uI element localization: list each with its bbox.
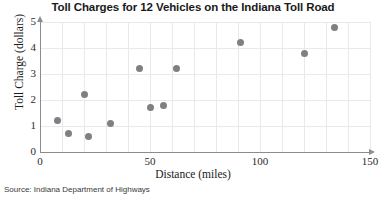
x-axis-label: Distance (miles) [0, 168, 386, 180]
x-axis-line [40, 152, 372, 153]
data-point [160, 102, 167, 109]
gridline-vertical [216, 22, 217, 152]
data-point [301, 50, 308, 57]
gridline-vertical [62, 22, 63, 152]
scatter-chart: Toll Charges for 12 Vehicles on the Indi… [0, 0, 386, 200]
gridline-vertical [326, 22, 327, 152]
gridline-vertical [128, 22, 129, 152]
chart-title: Toll Charges for 12 Vehicles on the Indi… [0, 1, 386, 13]
gridline-vertical [282, 22, 283, 152]
gridline-vertical [194, 22, 195, 152]
x-axis-tick-label: 50 [130, 155, 170, 167]
x-axis-tick-label: 150 [350, 155, 386, 167]
gridline-vertical [172, 22, 173, 152]
data-point [81, 91, 88, 98]
data-point [85, 133, 92, 140]
data-point [147, 104, 154, 111]
data-point [65, 130, 72, 137]
data-point [107, 120, 114, 127]
gridline-horizontal [40, 22, 370, 23]
gridline-vertical [106, 22, 107, 152]
gridline-horizontal [40, 126, 370, 127]
gridline-vertical [370, 22, 371, 152]
gridline-vertical [150, 22, 151, 152]
data-point [331, 24, 338, 31]
data-point [173, 65, 180, 72]
plot-area [40, 22, 370, 152]
data-point [237, 39, 244, 46]
data-point [136, 65, 143, 72]
source-note: Source: Indiana Department of Highways [4, 185, 150, 194]
y-axis-arrow-icon [37, 16, 43, 22]
data-point [54, 117, 61, 124]
gridline-vertical [84, 22, 85, 152]
y-axis-label: Toll Charge (dollars) [13, 2, 25, 122]
x-axis-tick-label: 100 [240, 155, 280, 167]
gridline-vertical [304, 22, 305, 152]
y-axis-line [40, 22, 41, 152]
gridline-vertical [260, 22, 261, 152]
gridline-horizontal [40, 48, 370, 49]
gridline-horizontal [40, 74, 370, 75]
gridline-vertical [348, 22, 349, 152]
x-axis-tick-label: 0 [20, 155, 60, 167]
gridline-horizontal [40, 100, 370, 101]
